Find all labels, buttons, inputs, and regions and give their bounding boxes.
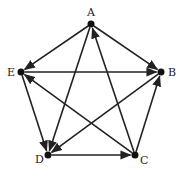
node-b [158, 69, 165, 76]
edge-e-to-d [22, 75, 47, 150]
node-e [18, 69, 25, 76]
edges [22, 26, 160, 155]
node-label-d: D [35, 153, 44, 166]
node-label-b: B [168, 66, 176, 79]
edge-c-to-e [25, 75, 133, 153]
node-c [132, 152, 139, 159]
node-labels: ABCDE [7, 6, 176, 167]
node-label-a: A [86, 6, 96, 19]
node-d [45, 152, 52, 159]
directed-graph: ABCDE [0, 0, 188, 174]
edge-a-to-d [49, 27, 90, 150]
edge-c-to-a [92, 28, 133, 151]
node-a [88, 21, 95, 28]
node-label-e: E [7, 66, 15, 79]
edge-b-to-d [52, 74, 159, 152]
node-label-c: C [140, 154, 148, 167]
nodes [18, 21, 165, 159]
